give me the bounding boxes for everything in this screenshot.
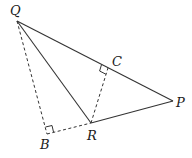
label-C: C: [112, 54, 122, 69]
segment-BR-dashed: [47, 123, 91, 134]
right-angle-marker-B: [46, 126, 54, 133]
segment-QB-dashed: [17, 21, 47, 134]
segment-QP: [17, 21, 173, 101]
label-P: P: [175, 95, 185, 110]
label-R: R: [86, 128, 97, 143]
geometry-diagram: Q P C R B: [0, 0, 192, 158]
segment-RC-dashed: [91, 68, 108, 123]
segment-QR: [17, 21, 91, 123]
label-Q: Q: [10, 3, 21, 18]
segment-RP: [91, 101, 173, 123]
label-B: B: [39, 137, 50, 152]
